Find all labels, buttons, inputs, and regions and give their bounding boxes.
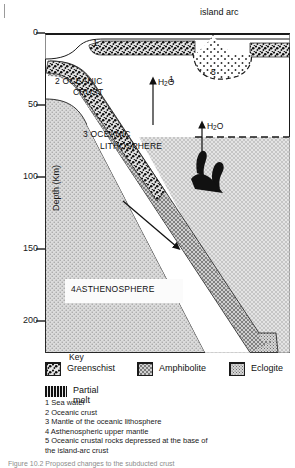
legend-label-amphibolite: Amphibolite bbox=[159, 363, 206, 373]
axis-tick-50: 50 bbox=[12, 99, 38, 109]
oceanic-lithosphere-label-line2: LITHOSPHERE bbox=[100, 141, 162, 152]
oceanic-lithosphere-label-line1: 3 OCEANIC bbox=[83, 129, 131, 140]
figure-root: island arc bbox=[0, 0, 295, 468]
figure-caption-text: Figure 10.2 Proposed changes to the subd… bbox=[8, 459, 295, 468]
legend-swatch-partial-melt bbox=[45, 386, 67, 397]
axis-tick-150: 150 bbox=[12, 243, 38, 253]
sea-water-marker-mid: 1 bbox=[169, 74, 174, 85]
figure-caption: Figure 10.2 Proposed changes to the subd… bbox=[8, 459, 295, 468]
axis-tick-100: 100 bbox=[12, 171, 38, 181]
cross-section-diagram: 1 5 2 OCEANIC CRUST 3 OCEANIC LITHOSPHER… bbox=[45, 33, 290, 353]
subduction-zone-figure: island arc bbox=[0, 0, 295, 468]
oceanic-crust-label-line1: 2 OCEANIC bbox=[55, 76, 103, 87]
depth-axis-title: Depth (Km) bbox=[51, 143, 61, 233]
axis-ticks bbox=[36, 32, 50, 332]
note-item: 1 Sea water bbox=[45, 398, 290, 408]
legend-title: Key bbox=[69, 352, 84, 362]
axis-tick-200: 200 bbox=[12, 315, 38, 325]
asthenosphere-label: 4ASTHENOSPHERE bbox=[71, 284, 155, 295]
legend-label-eclogite: Eclogite bbox=[251, 363, 283, 373]
oceanic-crust-label-line2: CRUST bbox=[73, 87, 103, 98]
note-item: 2 Oceanic crust bbox=[45, 408, 290, 418]
axis-tick-0: 0 bbox=[12, 27, 38, 37]
legend-row-patterns: Greenschist Amphibolite bbox=[45, 362, 295, 378]
note-item: 3 Mantle of the oceanic lithosphere bbox=[45, 417, 290, 427]
legend-label-greenschist: Greenschist bbox=[67, 363, 115, 373]
water-label-lower: H2O bbox=[188, 110, 223, 144]
depressed-crust-marker: 5 bbox=[211, 67, 216, 78]
sea-water-marker-top: 1 bbox=[93, 38, 98, 49]
note-item: 4 Asthenospheric upper mantle bbox=[45, 427, 290, 437]
legend-swatch-amphibolite bbox=[137, 362, 153, 376]
legend-swatch-greenschist bbox=[45, 362, 61, 376]
numbered-notes: 1 Sea water 2 Oceanic crust 3 Mantle of … bbox=[45, 398, 290, 456]
note-item: the island-arc crust bbox=[45, 446, 290, 456]
legend-swatch-eclogite bbox=[229, 362, 245, 376]
island-arc-label: island arc bbox=[200, 7, 239, 17]
note-item: 5 Oceanic crustal rocks depressed at the… bbox=[45, 436, 290, 446]
